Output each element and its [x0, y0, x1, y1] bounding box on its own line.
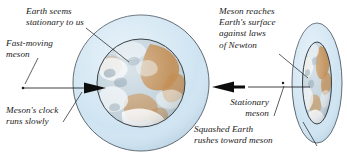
leader-stationary-meson	[274, 86, 284, 116]
caption-stationary-meson: Stationary meson	[207, 97, 269, 119]
caption-earth-seems-stationary: Earth seems stationary to us	[26, 6, 84, 28]
leader-fast-moving	[25, 58, 38, 84]
caption-mesons-clock-runs-slowly: Meson's clock runs slowly	[6, 105, 58, 127]
caption-fast-moving-meson: Fast-moving meson	[6, 38, 53, 60]
caption-squashed-earth-rushes-toward-meson: Squashed Earth rushes toward meson	[194, 124, 273, 146]
caption-meson-reaches-earths-surface: Meson reaches Earth's surface against la…	[219, 6, 276, 51]
physics-diagram-figure: Earth seems stationary to us Fast-moving…	[0, 0, 347, 154]
